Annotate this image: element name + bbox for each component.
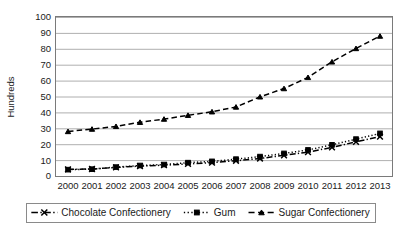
y-tick-label: 40 <box>40 107 51 118</box>
y-tick-label: 30 <box>40 123 51 134</box>
chart-container: Hundreds 0102030405060708090100 20002001… <box>0 0 401 229</box>
data-point-marker <box>194 210 199 215</box>
y-tick-label: 80 <box>40 43 51 54</box>
y-tick-label: 100 <box>35 11 51 22</box>
y-tick-label: 90 <box>40 27 51 38</box>
data-point-marker <box>330 143 335 148</box>
x-tick-label: 2009 <box>273 180 294 191</box>
x-tick-label: 2012 <box>345 180 366 191</box>
x-tick-label: 2010 <box>297 180 318 191</box>
data-point-marker <box>90 167 95 172</box>
y-tick-label: 10 <box>40 155 51 166</box>
legend-label: Gum <box>214 207 236 218</box>
legend-label: Sugar Confectionery <box>279 207 370 218</box>
x-tick-label: 2001 <box>81 180 102 191</box>
chart-legend: Chocolate ConfectioneryGumSugar Confecti… <box>27 204 376 223</box>
y-axis-title: Hundreds <box>5 76 16 117</box>
x-tick-label: 2005 <box>177 180 198 191</box>
x-tick-label: 2011 <box>322 180 342 191</box>
data-point-marker <box>210 159 215 164</box>
line-chart: Hundreds 0102030405060708090100 20002001… <box>0 0 401 229</box>
data-point-marker <box>114 165 119 170</box>
y-tick-label: 70 <box>40 59 51 70</box>
chart-background <box>0 0 401 229</box>
x-tick-label: 2008 <box>249 180 270 191</box>
data-point-marker <box>162 162 167 167</box>
y-tick-label: 0 <box>46 170 51 181</box>
data-point-marker <box>258 154 263 159</box>
x-tick-label: 2007 <box>225 180 246 191</box>
data-point-marker <box>138 163 143 168</box>
data-point-marker <box>306 148 311 153</box>
data-point-marker <box>186 160 191 165</box>
x-tick-label: 2000 <box>57 180 78 191</box>
y-tick-label: 50 <box>40 91 51 102</box>
y-axis-title-text: Hundreds <box>5 76 16 117</box>
x-tick-label: 2013 <box>369 180 390 191</box>
data-point-marker <box>234 157 239 162</box>
x-tick-label: 2003 <box>129 180 150 191</box>
data-point-marker <box>378 131 383 136</box>
y-tick-label: 60 <box>40 75 51 86</box>
x-tick-label: 2006 <box>201 180 222 191</box>
legend-label: Chocolate Confectionery <box>61 207 171 218</box>
x-tick-label: 2002 <box>105 180 126 191</box>
data-point-marker <box>354 137 359 142</box>
data-point-marker <box>282 151 287 156</box>
data-point-marker <box>66 167 71 172</box>
x-tick-label: 2004 <box>153 180 174 191</box>
y-tick-label: 20 <box>40 139 51 150</box>
